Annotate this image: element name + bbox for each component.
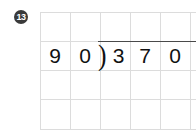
grid-cell[interactable] xyxy=(100,12,130,41)
grid-bottom-edge xyxy=(40,129,196,130)
grid-cell[interactable] xyxy=(190,41,196,70)
dividend-digit-ones: 0 xyxy=(160,41,190,70)
work-row-1 xyxy=(40,70,196,99)
work-row-2 xyxy=(40,99,196,129)
grid-cell[interactable] xyxy=(100,70,130,99)
divisor-digit-ones: 0 xyxy=(70,41,100,70)
grid-cell[interactable] xyxy=(70,99,100,129)
grid-cell[interactable] xyxy=(100,99,130,129)
grid-cell[interactable] xyxy=(130,12,160,41)
quotient-row xyxy=(40,12,196,41)
divisor-digit-tens: 9 xyxy=(40,41,70,70)
grid-cell[interactable] xyxy=(130,99,160,129)
grid-cell[interactable] xyxy=(190,70,196,99)
grid-cell[interactable] xyxy=(40,70,70,99)
dividend-digit-hundreds: 3 xyxy=(100,41,130,70)
grid-cell[interactable] xyxy=(160,12,190,41)
grid-cell[interactable] xyxy=(70,70,100,99)
division-vinculum xyxy=(98,41,196,42)
grid-cell[interactable] xyxy=(40,99,70,129)
dividend-row: 9 0 3 7 0 xyxy=(40,41,196,70)
grid-cell[interactable] xyxy=(40,12,70,41)
grid-cell[interactable] xyxy=(190,99,196,129)
grid-cell[interactable] xyxy=(70,12,100,41)
problem-number-badge: 13 xyxy=(14,10,28,24)
long-division-worksheet-grid: 9 0 3 7 0 ) xyxy=(40,12,196,129)
dividend-digit-tens: 7 xyxy=(130,41,160,70)
grid-cell[interactable] xyxy=(190,12,196,41)
grid-cell[interactable] xyxy=(160,70,190,99)
grid-cell[interactable] xyxy=(160,99,190,129)
grid-cell[interactable] xyxy=(130,70,160,99)
